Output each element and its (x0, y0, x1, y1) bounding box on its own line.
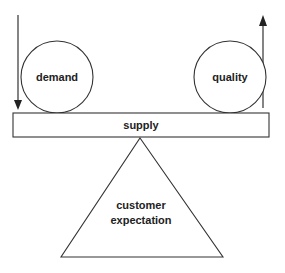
fulcrum-label-line2: expectation (110, 214, 171, 226)
quality-weight: quality (194, 41, 266, 113)
diagram-canvas: demand quality supply customer expectati… (0, 0, 285, 273)
down-arrow-icon (14, 15, 22, 110)
quality-label: quality (212, 71, 248, 83)
supply-beam: supply (13, 113, 269, 137)
supply-label: supply (123, 119, 159, 131)
demand-weight: demand (21, 41, 93, 113)
customer-expectation-fulcrum: customer expectation (61, 138, 223, 257)
demand-label: demand (36, 71, 78, 83)
fulcrum-label-line1: customer (116, 199, 166, 211)
balance-diagram: demand quality supply customer expectati… (0, 0, 285, 273)
